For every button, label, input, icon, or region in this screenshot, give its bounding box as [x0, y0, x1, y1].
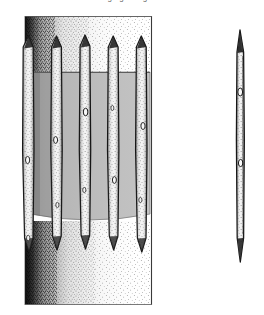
detail-scion — [236, 30, 244, 262]
illustration-canvas — [0, 0, 264, 315]
scion-2 — [51, 36, 62, 250]
detail-scion-bud-lower — [238, 159, 242, 166]
scion-4 — [108, 36, 119, 250]
bridge-grafting-figure: BRIDGE GRAFTBridge grafting — [0, 0, 264, 315]
scion-1 — [23, 36, 34, 252]
scion-2-bud — [54, 137, 58, 144]
scion-1-bud — [26, 156, 30, 163]
scion-3 — [79, 35, 90, 249]
detail-scion-bud-upper — [238, 88, 243, 96]
scion-5-bud — [141, 123, 145, 130]
scion-4-bud — [112, 177, 116, 184]
scion-3-bud — [83, 108, 88, 116]
scion-5 — [136, 36, 147, 252]
